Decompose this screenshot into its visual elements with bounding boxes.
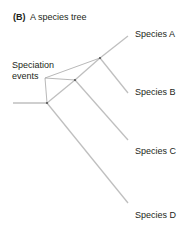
branch-c [75, 80, 128, 140]
node-3 [99, 57, 101, 59]
species-c-label: Species C [135, 146, 176, 156]
node-2 [74, 79, 76, 81]
branch-d [47, 103, 128, 203]
species-d-label: Species D [135, 210, 176, 220]
species-a-label: Species A [135, 29, 175, 39]
internal-branch-1 [47, 80, 75, 103]
branch-b [100, 58, 128, 93]
species-b-label: Species B [135, 87, 176, 97]
branch-a [100, 36, 128, 58]
speciation-events-label: Speciation events [12, 60, 54, 82]
node-root [46, 102, 48, 104]
internal-branch-2 [75, 58, 100, 80]
